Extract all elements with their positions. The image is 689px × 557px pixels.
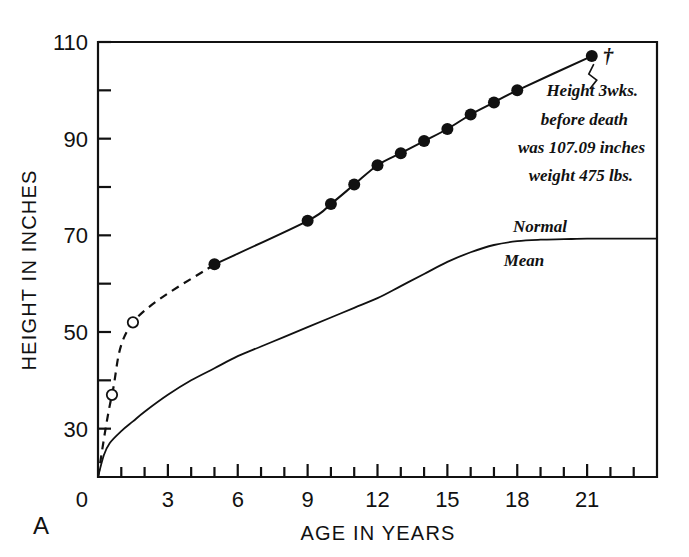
normal-curve-label: Normal (512, 217, 567, 236)
x-tick-label: 21 (575, 487, 599, 512)
data-point-filled (325, 198, 337, 210)
series-line-subject-early (98, 264, 214, 477)
data-point-filled (488, 96, 500, 108)
data-point-open (128, 317, 138, 327)
series-line-normal-mean (98, 239, 657, 477)
data-point-filled (208, 258, 220, 270)
plot-frame (98, 42, 657, 477)
data-point-filled (441, 123, 453, 135)
data-point-filled (372, 159, 384, 171)
y-tick-label: 70 (64, 223, 88, 248)
height-note-line-2: before death (541, 110, 628, 129)
data-point-filled (465, 109, 477, 121)
data-point-filled (302, 215, 314, 227)
x-tick-label: 12 (365, 487, 389, 512)
x-tick-label: 3 (162, 487, 174, 512)
data-point-filled (511, 84, 523, 96)
axis-frame (98, 42, 657, 477)
y-tick-label: 110 (53, 30, 88, 55)
y-tick-label: 50 (64, 320, 88, 345)
y-axis-title: HEIGHT IN INCHES (18, 169, 40, 370)
data-point-open (107, 390, 117, 400)
data-point-filled (348, 179, 360, 191)
height-note-annotation: Height 3wks. before death was 107.09 inc… (518, 81, 645, 185)
y-tick-label: 90 (64, 127, 88, 152)
growth-chart-figure: 305070901100 36912151821 HEIGHT IN INCHE… (0, 0, 689, 557)
x-tick-label: 9 (302, 487, 314, 512)
panel-label: A (33, 512, 49, 539)
x-axis-ticks (121, 464, 633, 477)
y-origin-label: 0 (76, 487, 88, 512)
y-axis-ticks (98, 42, 111, 429)
data-point-filled (418, 135, 430, 147)
x-tick-label: 18 (505, 487, 529, 512)
x-axis-tick-labels: 36912151821 (162, 487, 600, 512)
y-tick-label: 30 (64, 417, 88, 442)
height-note-line-3: was 107.09 inches (518, 138, 645, 157)
height-note-line-1: Height 3wks. (545, 81, 638, 100)
height-note-line-4: weight 475 lbs. (529, 166, 633, 185)
data-point-filled (395, 147, 407, 159)
chart-svg: 305070901100 36912151821 HEIGHT IN INCHE… (0, 0, 689, 557)
death-dagger-icon: † (603, 44, 614, 68)
series-markers-filled (208, 50, 597, 270)
x-tick-label: 6 (232, 487, 244, 512)
y-axis-tick-labels: 305070901100 (53, 30, 88, 512)
data-point-filled (586, 50, 598, 62)
x-axis-title: AGE IN YEARS (300, 522, 455, 544)
x-tick-label: 15 (435, 487, 459, 512)
series-markers-open (107, 317, 138, 400)
mean-curve-label: Mean (503, 251, 545, 270)
